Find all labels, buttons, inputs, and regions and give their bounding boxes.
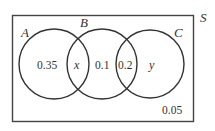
region-a-and-b: x [73,58,80,72]
region-b-and-c: 0.2 [118,59,133,71]
region-c-only: y [148,58,155,72]
region-b-only: 0.1 [95,59,110,71]
universe-label: S [200,10,207,25]
region-a-only: 0.35 [37,59,57,71]
set-label-b: B [80,15,88,30]
set-label-a: A [20,25,29,40]
region-outside: 0.05 [162,104,182,116]
set-label-c: C [174,25,183,40]
venn-diagram: S A B C 0.35 x 0.1 0.2 y 0.05 [0,0,215,131]
